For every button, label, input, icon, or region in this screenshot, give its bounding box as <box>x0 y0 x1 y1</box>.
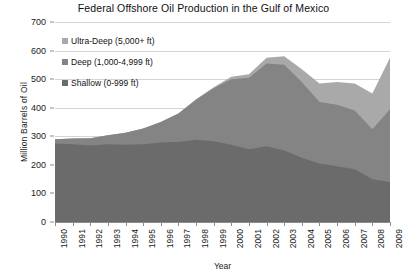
x-tick-label-1999: 1999 <box>218 229 228 248</box>
x-tick-mark-1992 <box>90 222 91 226</box>
x-tick-mark-1991 <box>73 222 74 226</box>
x-tick-label-2008: 2008 <box>376 229 386 248</box>
y-tick-mark-100 <box>50 193 54 194</box>
y-tick-label-0: 0 <box>41 217 46 227</box>
x-tick-label-1993: 1993 <box>112 229 122 248</box>
y-tick-label-400: 400 <box>31 103 46 113</box>
x-tick-mark-2001 <box>249 222 250 226</box>
x-tick-label-2001: 2001 <box>253 229 263 248</box>
x-tick-mark-1990 <box>55 222 56 226</box>
x-tick-label-1997: 1997 <box>182 229 192 248</box>
x-tick-mark-2008 <box>372 222 373 226</box>
x-tick-mark-1997 <box>178 222 179 226</box>
y-tick-label-500: 500 <box>31 74 46 84</box>
y-tick-mark-500 <box>50 79 54 80</box>
y-tick-mark-600 <box>50 50 54 51</box>
y-axis: Million Barrels of Oil 01002003004005006… <box>0 22 52 222</box>
y-tick-label-700: 700 <box>31 17 46 27</box>
y-tick-label-100: 100 <box>31 188 46 198</box>
x-tick-mark-1996 <box>161 222 162 226</box>
x-tick-label-1994: 1994 <box>130 229 140 248</box>
y-tick-mark-0 <box>50 222 54 223</box>
chart-legend: Ultra-Deep (5,000+ ft)Deep (1,000-4,999 … <box>62 30 242 93</box>
x-tick-mark-2009 <box>390 222 391 226</box>
y-tick-label-600: 600 <box>31 46 46 56</box>
x-tick-label-1990: 1990 <box>59 229 69 248</box>
legend-item: Ultra-Deep (5,000+ ft) <box>62 30 242 51</box>
x-tick-label-2007: 2007 <box>359 229 369 248</box>
x-tick-mark-2005 <box>319 222 320 226</box>
y-tick-mark-700 <box>50 22 54 23</box>
x-tick-label-1998: 1998 <box>200 229 210 248</box>
x-tick-label-2005: 2005 <box>323 229 333 248</box>
x-tick-label-1995: 1995 <box>147 229 157 248</box>
y-tick-label-300: 300 <box>31 131 46 141</box>
legend-item: Shallow (0-999 ft) <box>62 72 242 93</box>
chart-title: Federal Offshore Oil Production in the G… <box>0 2 407 14</box>
x-tick-mark-1995 <box>143 222 144 226</box>
x-tick-label-2000: 2000 <box>235 229 245 248</box>
x-tick-mark-2003 <box>284 222 285 226</box>
legend-item-label: Shallow (0-999 ft) <box>71 78 139 88</box>
x-tick-mark-1998 <box>196 222 197 226</box>
legend-item: Deep (1,000-4,999 ft) <box>62 51 242 72</box>
x-axis: 1990199119921993199419951996199719981999… <box>55 222 390 262</box>
x-tick-mark-2000 <box>231 222 232 226</box>
x-tick-mark-2006 <box>337 222 338 226</box>
legend-swatch-icon <box>62 59 68 65</box>
x-tick-mark-2004 <box>302 222 303 226</box>
y-tick-label-200: 200 <box>31 160 46 170</box>
legend-swatch-icon <box>62 38 68 44</box>
x-tick-mark-2007 <box>355 222 356 226</box>
y-tick-mark-200 <box>50 164 54 165</box>
x-tick-label-2006: 2006 <box>341 229 351 248</box>
x-tick-mark-1993 <box>108 222 109 226</box>
x-tick-label-2004: 2004 <box>306 229 316 248</box>
y-tick-mark-400 <box>50 107 54 108</box>
x-tick-label-2002: 2002 <box>271 229 281 248</box>
x-tick-label-1991: 1991 <box>77 229 87 248</box>
chart-container: Federal Offshore Oil Production in the G… <box>0 0 407 280</box>
x-tick-mark-2002 <box>267 222 268 226</box>
y-tick-mark-300 <box>50 136 54 137</box>
legend-item-label: Deep (1,000-4,999 ft) <box>71 57 153 67</box>
x-tick-mark-1994 <box>126 222 127 226</box>
x-tick-label-1996: 1996 <box>165 229 175 248</box>
x-tick-label-2009: 2009 <box>394 229 404 248</box>
y-axis-title: Million Barrels of Oil <box>19 42 29 202</box>
legend-item-label: Ultra-Deep (5,000+ ft) <box>71 36 155 46</box>
x-tick-label-1992: 1992 <box>94 229 104 248</box>
legend-swatch-icon <box>62 80 68 86</box>
x-tick-label-2003: 2003 <box>288 229 298 248</box>
x-axis-title: Year <box>55 261 390 271</box>
x-tick-mark-1999 <box>214 222 215 226</box>
